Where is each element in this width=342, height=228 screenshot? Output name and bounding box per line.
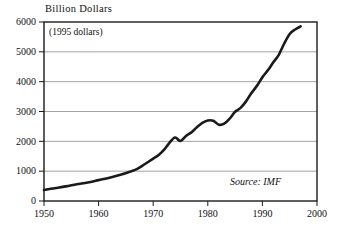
data-series-world-exports [44,26,301,189]
chart-figure: Billion Dollars (1995 dollars) Source: I… [0,0,342,228]
x-tick-label: 1960 [79,209,119,219]
x-tick-label: 1990 [242,209,282,219]
y-tick-label: 0 [2,196,36,206]
y-tick-label: 5000 [2,47,36,57]
y-tick-label: 2000 [2,137,36,147]
y-tick-label: 4000 [2,77,36,87]
x-tick-label: 1950 [24,209,64,219]
y-axis-ticks [39,22,44,201]
y-tick-label: 6000 [2,17,36,27]
x-tick-label: 1970 [133,209,173,219]
plot-area [0,0,342,228]
y-tick-label: 3000 [2,107,36,117]
x-tick-label: 1980 [188,209,228,219]
gridlines [44,52,317,171]
x-tick-label: 2000 [297,209,337,219]
x-axis-ticks [44,201,317,206]
y-tick-label: 1000 [2,166,36,176]
